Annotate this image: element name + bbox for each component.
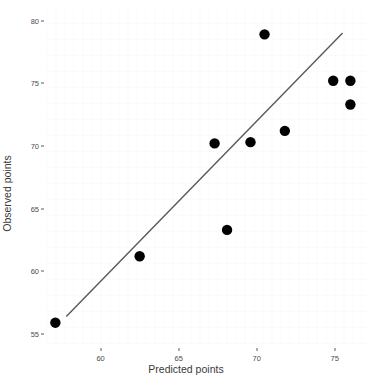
x-tick-mark	[334, 348, 335, 351]
x-tick-mark	[100, 348, 101, 351]
y-tick-label: 80	[31, 16, 39, 25]
y-tick-label: 55	[31, 329, 39, 338]
x-axis-title: Predicted points	[0, 363, 372, 375]
data-point	[222, 225, 232, 235]
data-point	[50, 317, 60, 327]
data-point	[245, 137, 255, 147]
y-tick-mark	[41, 333, 44, 334]
y-tick-mark	[41, 208, 44, 209]
y-tick-label: 60	[31, 267, 39, 276]
data-point	[345, 76, 355, 86]
plot-canvas	[0, 0, 372, 387]
x-tick-mark	[256, 348, 257, 351]
y-tick-mark	[41, 20, 44, 21]
data-points-group	[50, 29, 355, 328]
fit-line	[66, 33, 342, 316]
data-point	[209, 138, 219, 148]
plot-panel: 556065707580 60657075	[0, 0, 372, 387]
y-tick-label: 75	[31, 79, 39, 88]
y-tick-mark	[41, 271, 44, 272]
x-tick-label: 60	[96, 354, 104, 363]
y-tick-mark	[41, 83, 44, 84]
x-tick-label: 75	[331, 354, 339, 363]
x-tick-label: 70	[253, 354, 261, 363]
data-point	[259, 29, 269, 39]
y-tick-label: 65	[31, 204, 39, 213]
regression-line	[66, 33, 342, 316]
data-point	[345, 99, 355, 109]
x-tick-mark	[178, 348, 179, 351]
data-point	[328, 76, 338, 86]
y-axis-title: Observed points	[0, 0, 14, 387]
y-tick-mark	[41, 145, 44, 146]
x-tick-label: 65	[175, 354, 183, 363]
scatter-plot-figure: 556065707580 60657075 Predicted points O…	[0, 0, 372, 387]
data-point	[134, 251, 144, 261]
data-point	[280, 126, 290, 136]
y-tick-label: 70	[31, 141, 39, 150]
